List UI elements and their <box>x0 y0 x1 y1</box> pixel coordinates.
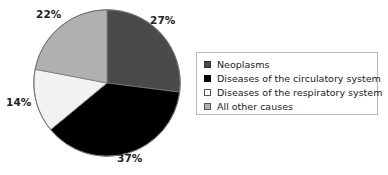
pie-chart-graphic <box>33 9 181 157</box>
pie-slice-group <box>34 10 180 156</box>
pie-label-respiratory: 14% <box>6 96 31 108</box>
pie-svg <box>33 9 181 157</box>
legend-label-other-causes: All other causes <box>217 101 293 112</box>
gray-swatch-icon <box>204 103 211 110</box>
pie-label-circulatory: 37% <box>117 152 142 164</box>
legend-label-respiratory: Diseases of the respiratory system <box>217 87 382 98</box>
pie-chart-figure: 27% 37% 14% 22% Neoplasms Diseases of th… <box>0 0 388 175</box>
legend-label-circulatory: Diseases of the circulatory system <box>217 73 381 84</box>
pie-label-other-causes: 22% <box>36 8 61 20</box>
legend-item-other-causes: All other causes <box>204 100 377 113</box>
legend-item-respiratory: Diseases of the respiratory system <box>204 86 377 99</box>
legend-label-neoplasms: Neoplasms <box>217 59 269 70</box>
legend-item-circulatory: Diseases of the circulatory system <box>204 72 377 85</box>
pie-label-neoplasms: 27% <box>150 14 175 26</box>
legend-item-neoplasms: Neoplasms <box>204 58 377 71</box>
white-swatch-icon <box>204 89 211 96</box>
black-swatch-icon <box>204 75 211 82</box>
chart-legend: Neoplasms Diseases of the circulatory sy… <box>196 52 378 115</box>
dark-gray-swatch-icon <box>204 61 211 68</box>
